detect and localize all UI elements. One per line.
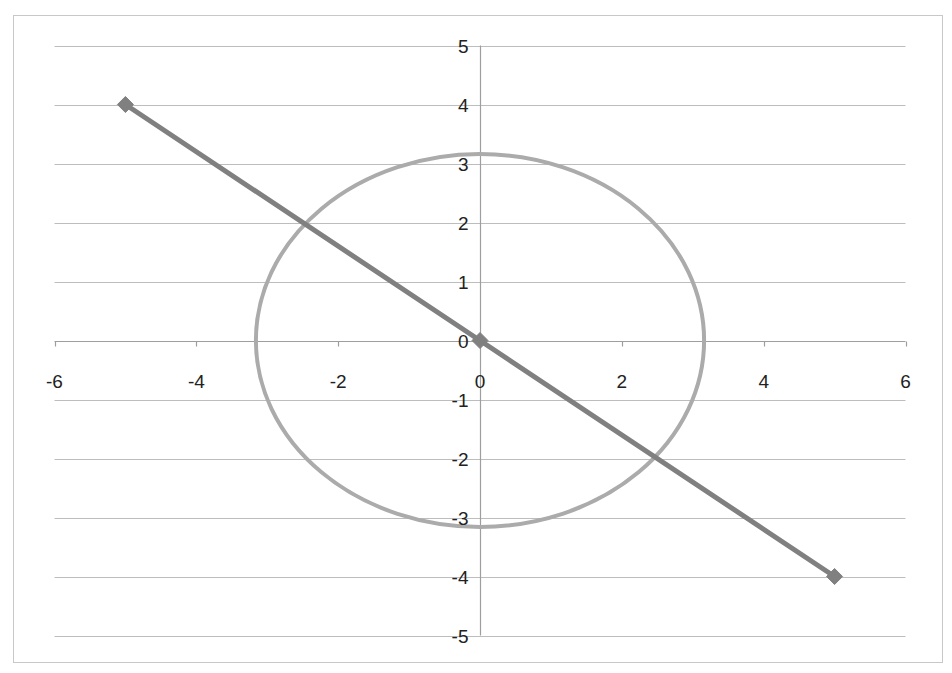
x-tick-label: -4 bbox=[188, 371, 205, 392]
y-tick-label: 4 bbox=[458, 95, 469, 116]
x-tick-label: 4 bbox=[758, 371, 769, 392]
x-tick-label: 2 bbox=[617, 371, 628, 392]
x-tick-label: 6 bbox=[900, 371, 911, 392]
y-tick-label: -4 bbox=[452, 567, 469, 588]
y-tick-label: 5 bbox=[458, 36, 469, 57]
x-tick-label: -6 bbox=[46, 371, 63, 392]
chart: -6-4-20246543210-1-2-3-4-5 bbox=[0, 0, 952, 673]
y-tick-label: 3 bbox=[458, 154, 469, 175]
y-tick-label: 1 bbox=[458, 272, 469, 293]
y-tick-label: -2 bbox=[452, 449, 469, 470]
y-tick-label: 0 bbox=[458, 331, 469, 352]
y-tick-label: -3 bbox=[452, 508, 469, 529]
y-tick-label: -1 bbox=[452, 390, 469, 411]
x-tick-label: -2 bbox=[330, 371, 347, 392]
x-tick-label: 0 bbox=[475, 371, 486, 392]
y-tick-label: 2 bbox=[458, 213, 469, 234]
y-tick-label: -5 bbox=[452, 626, 469, 647]
